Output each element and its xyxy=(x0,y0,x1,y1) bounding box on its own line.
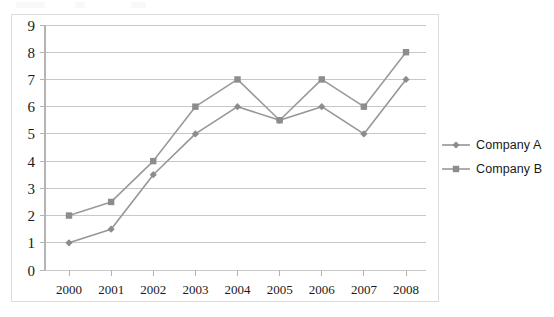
y-axis-tick-label: 6 xyxy=(28,99,36,115)
y-axis-tick-label: 7 xyxy=(28,72,36,88)
legend-label-company-a: Company A xyxy=(471,138,542,152)
x-axis-tick-label: 2003 xyxy=(182,282,208,297)
y-axis-tick-label: 3 xyxy=(28,181,36,197)
data-point-company-b xyxy=(403,49,409,55)
data-point-company-b xyxy=(319,76,325,82)
data-point-company-b xyxy=(276,117,282,123)
data-point-company-b xyxy=(150,158,156,164)
y-axis-tick-label: 0 xyxy=(28,263,36,279)
x-axis-tick-label: 2004 xyxy=(225,282,252,297)
y-axis-tick-label: 5 xyxy=(28,126,36,142)
legend-item-company-a[interactable]: Company A xyxy=(441,133,551,157)
legend-key-diamond-icon xyxy=(441,138,471,152)
data-point-company-b xyxy=(361,103,367,109)
x-axis-tick-label: 2008 xyxy=(393,282,419,297)
data-point-company-b xyxy=(234,76,240,82)
chart-legend: Company A Company B xyxy=(441,133,551,181)
y-axis-tick-label: 8 xyxy=(28,45,36,61)
x-axis-tick-label: 2007 xyxy=(351,282,378,297)
line-chart: 0123456789200020012002200320042005200620… xyxy=(0,0,554,317)
data-point-company-a xyxy=(65,239,72,246)
y-axis-tick-label: 4 xyxy=(28,154,36,170)
scan-artifact xyxy=(16,2,226,8)
data-point-company-b xyxy=(66,212,72,218)
legend-item-company-b[interactable]: Company B xyxy=(441,157,551,181)
chart-frame: 0123456789200020012002200320042005200620… xyxy=(11,14,439,302)
x-axis-tick-label: 2006 xyxy=(309,282,336,297)
y-axis-tick-label: 1 xyxy=(28,235,36,251)
x-axis-tick-label: 2002 xyxy=(140,282,166,297)
x-axis-tick-label: 2000 xyxy=(56,282,82,297)
legend-label-company-b: Company B xyxy=(471,162,542,176)
y-axis-tick-label: 9 xyxy=(28,18,36,34)
x-axis-tick-label: 2005 xyxy=(267,282,293,297)
data-point-company-b xyxy=(192,103,198,109)
x-axis-tick-label: 2001 xyxy=(98,282,124,297)
plot-area: 0123456789200020012002200320042005200620… xyxy=(12,15,440,303)
data-point-company-b xyxy=(108,199,114,205)
y-axis-tick-label: 2 xyxy=(28,208,36,224)
legend-key-square-icon xyxy=(441,162,471,176)
